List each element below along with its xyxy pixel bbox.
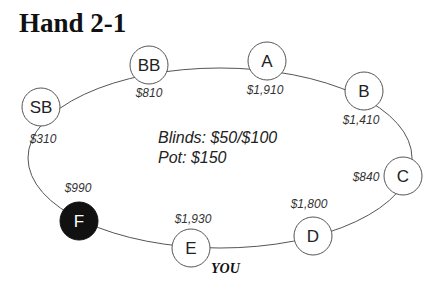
- seat-f: F $990: [60, 181, 98, 240]
- stack-sb: $310: [29, 132, 57, 146]
- seat-b: B $1,410: [342, 72, 383, 127]
- stack-e: $1,930: [174, 212, 212, 226]
- svg-text:F: F: [74, 212, 84, 231]
- seat-d: D $1,800: [290, 197, 332, 255]
- svg-text:C: C: [397, 167, 409, 186]
- stack-b: $1,410: [342, 113, 380, 127]
- poker-table-diagram: Blinds: $50/$100 Pot: $150 SB $310 BB $8…: [0, 0, 444, 288]
- svg-text:SB: SB: [30, 98, 53, 117]
- svg-text:BB: BB: [138, 56, 161, 75]
- seat-c: C $840: [352, 157, 422, 195]
- you-label: YOU: [211, 261, 241, 276]
- seat-a: A $1,910: [246, 42, 286, 97]
- blinds-text: Blinds: $50/$100: [158, 129, 277, 146]
- seat-bb: BB $810: [130, 46, 168, 100]
- seat-e: E $1,930 YOU: [172, 212, 241, 276]
- stack-d: $1,800: [290, 197, 328, 211]
- stack-a: $1,910: [246, 83, 284, 97]
- svg-text:E: E: [185, 239, 196, 258]
- svg-text:D: D: [307, 227, 319, 246]
- stack-bb: $810: [135, 86, 163, 100]
- svg-text:A: A: [261, 52, 273, 71]
- pot-text: Pot: $150: [158, 149, 227, 166]
- seat-sb: SB $310: [22, 88, 60, 146]
- svg-text:B: B: [358, 82, 369, 101]
- stack-f: $990: [64, 181, 92, 195]
- stack-c: $840: [352, 170, 380, 184]
